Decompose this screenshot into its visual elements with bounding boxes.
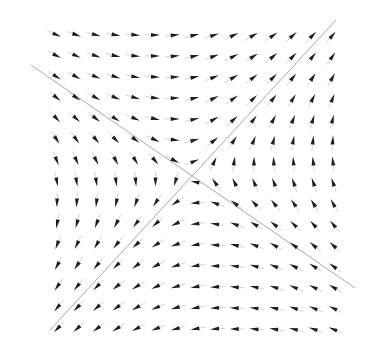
arrow-tail (140, 281, 145, 284)
field-arrow-icon (272, 178, 277, 187)
field-arrow-icon (75, 198, 79, 207)
arrow-tail (206, 143, 211, 147)
arrow-tail (287, 81, 291, 86)
arrow-tail (53, 151, 55, 157)
field-arrow-icon (174, 177, 179, 186)
arrow-tail (205, 100, 211, 102)
phase-portrait (0, 0, 382, 355)
arrow-tail (337, 310, 342, 313)
arrow-tail (312, 145, 313, 151)
field-arrow-icon (111, 53, 120, 57)
field-arrow-icon (190, 76, 199, 80)
field-arrow-icon (331, 178, 336, 187)
arrow-tail (180, 305, 186, 307)
field-arrow-icon (111, 115, 120, 122)
arrow-tail (306, 38, 310, 42)
field-arrow-icon (190, 97, 199, 101)
arrow-tail (199, 264, 205, 265)
field-arrow-icon (210, 327, 219, 331)
arrow-tail (307, 81, 310, 86)
arrow-tail (67, 52, 73, 54)
arrow-tail (336, 248, 340, 252)
field-arrow-icon (131, 115, 140, 121)
field-arrow-icon (133, 177, 137, 186)
field-arrow-icon (151, 33, 160, 37)
field-arrow-icon (151, 283, 160, 289)
arrow-tail (79, 236, 82, 241)
field-arrow-icon (250, 115, 257, 123)
field-arrow-icon (190, 159, 199, 164)
arrow-tail (250, 144, 252, 150)
field-arrow-icon (52, 31, 61, 36)
field-arrow-icon (114, 177, 118, 186)
field-arrow-icon (134, 198, 139, 207)
arrow-tail (80, 279, 84, 284)
arrow-tail (278, 309, 284, 310)
field-arrow-icon (131, 95, 140, 100)
arrow-tail (68, 72, 73, 75)
arrow-tail (158, 194, 161, 199)
arrow-tail (137, 193, 139, 199)
arrow-tail (107, 94, 113, 97)
field-arrow-icon (210, 96, 219, 102)
field-arrow-icon (115, 198, 119, 207)
field-arrow-icon (94, 177, 98, 186)
direction-field-arrows (47, 31, 342, 333)
field-arrow-icon (151, 116, 160, 120)
arrow-tail (265, 38, 270, 42)
field-arrow-icon (329, 263, 337, 270)
field-arrow-icon (229, 33, 238, 39)
field-arrow-icon (131, 74, 140, 78)
field-arrow-icon (171, 326, 180, 330)
field-arrow-icon (272, 157, 276, 166)
arrow-tail (185, 120, 191, 122)
arrow-tail (227, 122, 231, 126)
field-arrow-icon (171, 263, 180, 268)
arrow-tail (239, 287, 245, 288)
arrow-tail (228, 144, 231, 149)
arrow-tail (118, 215, 121, 220)
field-arrow-icon (230, 306, 239, 310)
arrow-tail (126, 95, 132, 97)
field-arrow-icon (190, 201, 199, 205)
field-arrow-icon (269, 286, 278, 291)
field-arrow-icon (112, 156, 118, 165)
field-arrow-icon (111, 74, 120, 79)
field-arrow-icon (95, 219, 100, 228)
field-arrow-icon (95, 198, 99, 207)
field-arrow-icon (311, 199, 317, 208)
arrow-tail (236, 186, 239, 191)
arrow-tail (199, 223, 205, 224)
arrow-tail (333, 166, 334, 172)
field-arrow-icon (171, 54, 180, 58)
field-arrow-icon (93, 156, 99, 165)
field-arrow-icon (230, 244, 239, 248)
field-arrow-icon (210, 34, 219, 39)
arrow-tail (217, 186, 221, 191)
arrow-tail (115, 172, 116, 178)
arrow-tail (233, 165, 234, 171)
field-arrow-icon (190, 118, 199, 122)
field-arrow-icon (154, 178, 158, 187)
arrow-tail (119, 237, 123, 242)
arrow-tail (126, 75, 132, 76)
field-arrow-icon (292, 157, 296, 166)
field-arrow-icon (92, 94, 101, 100)
arrow-tail (180, 263, 186, 265)
field-arrow-icon (230, 95, 239, 102)
arrow-tail (199, 243, 205, 244)
arrow-tail (120, 302, 125, 305)
field-arrow-icon (331, 136, 335, 145)
field-arrow-icon (133, 219, 140, 227)
arrow-tail (139, 238, 143, 242)
field-arrow-icon (232, 178, 238, 187)
field-arrow-icon (270, 264, 279, 269)
arrow-tail (310, 123, 312, 129)
arrow-tail (199, 183, 205, 184)
arrow-tail (266, 80, 270, 84)
arrow-tail (239, 246, 245, 247)
field-arrow-icon (132, 304, 141, 310)
arrow-tail (86, 32, 92, 34)
arrow-tail (225, 79, 230, 82)
field-arrow-icon (210, 243, 219, 247)
